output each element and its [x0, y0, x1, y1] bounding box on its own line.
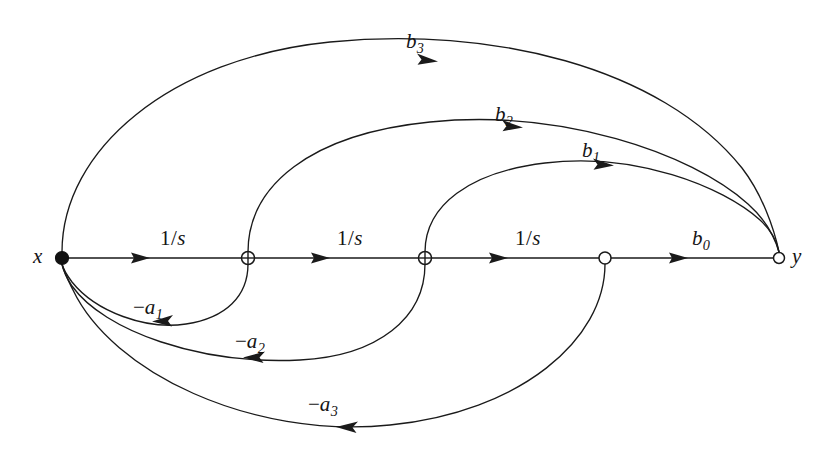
- node-y[interactable]: [774, 253, 785, 264]
- feedforward-edges-group: [62, 39, 779, 252]
- gain-label-a3: −a3: [308, 394, 337, 415]
- node-x[interactable]: [56, 252, 69, 265]
- gain-label-b1: b1: [582, 140, 600, 161]
- gain-a3-subscript: 3: [331, 403, 338, 419]
- gain-a3-base: a: [320, 392, 331, 416]
- gain-a2-sign: −: [235, 329, 247, 353]
- gain-b0-subscript: 0: [703, 237, 710, 253]
- gain-a1-subscript: 1: [156, 306, 163, 322]
- gain-b1-base: b: [582, 138, 593, 162]
- gain-a2-base: a: [247, 329, 258, 353]
- node-y-label: y: [792, 246, 801, 267]
- gain-a1-base: a: [145, 295, 156, 319]
- edge-b3-path: [62, 39, 779, 252]
- figure-canvas: x y 1/s 1/s 1/s b0 b1 b2 b3 −a1 −a2 −a3: [0, 0, 837, 451]
- node-x-label: x: [33, 246, 42, 267]
- gain-b2-subscript: 2: [506, 113, 513, 129]
- gain-a3-sign: −: [308, 392, 320, 416]
- signal-flow-graph: [0, 0, 837, 451]
- gain-label-b2: b2: [495, 104, 513, 125]
- edge-b1-path: [425, 161, 779, 252]
- gain-label-integrator-2: 1/s: [337, 228, 363, 249]
- integrator-3-numerator: 1: [515, 226, 526, 250]
- gain-b0-base: b: [692, 226, 703, 250]
- integrator-3-denominator: s: [532, 226, 540, 250]
- gain-label-integrator-3: 1/s: [515, 228, 541, 249]
- gain-label-b0: b0: [692, 228, 710, 249]
- integrator-1-numerator: 1: [160, 226, 171, 250]
- gain-a2-subscript: 2: [258, 340, 265, 356]
- gain-label-integrator-1: 1/s: [160, 228, 186, 249]
- integrator-1-denominator: s: [177, 226, 185, 250]
- gain-label-a1: −a1: [133, 297, 162, 318]
- gain-b3-base: b: [406, 29, 417, 53]
- gain-b2-base: b: [495, 102, 506, 126]
- gain-b1-subscript: 1: [593, 149, 600, 165]
- gain-label-a2: −a2: [235, 331, 264, 352]
- node-n3[interactable]: [599, 252, 611, 264]
- gain-b3-subscript: 3: [417, 40, 424, 56]
- gain-label-b3: b3: [406, 31, 424, 52]
- gain-a1-sign: −: [133, 295, 145, 319]
- integrator-2-numerator: 1: [337, 226, 348, 250]
- integrator-2-denominator: s: [354, 226, 362, 250]
